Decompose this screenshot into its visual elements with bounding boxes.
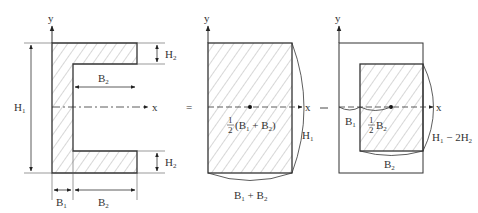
panel-inner-cutout: y x B1 1 2 B2 H1 − 2H2 B2 [335, 12, 473, 173]
b2-label: B2 [384, 158, 395, 172]
x-axis-label: x [305, 101, 311, 113]
centroid-dot [248, 105, 252, 109]
b2-bracket [360, 151, 423, 156]
half-frac-num: 1 [369, 115, 374, 125]
h1-label: H1 [302, 129, 314, 143]
h1-label: H1 [14, 101, 26, 115]
b1-offset-label: B1 [345, 115, 356, 129]
channel-shape [52, 43, 137, 173]
section-diagram: y x H1 H2 H2 B2 B1 B2 = y [0, 0, 478, 213]
panel-channel-section: y x H1 H2 H2 B2 B1 B2 [14, 12, 177, 210]
equals-sign: = [186, 101, 192, 113]
b2-inner-label: B2 [98, 72, 109, 86]
inner-height-label: H1 − 2H2 [432, 131, 473, 145]
centroid-frac-den: 2 [228, 125, 233, 135]
h2-top-label: H2 [165, 48, 177, 62]
centroid-frac-num: 1 [228, 115, 233, 125]
b2-bottom-label: B2 [98, 196, 109, 210]
y-axis-label: y [48, 12, 54, 24]
width-label: B1 + B2 [234, 189, 268, 203]
width-bracket [208, 173, 292, 181]
b1-bottom-label: B1 [56, 196, 67, 210]
half-frac-den: 2 [369, 125, 374, 135]
h2-bottom-label: H2 [165, 156, 177, 170]
panel-full-rectangle: y x 1 2 (B1 + B2) H1 B1 + B2 [204, 12, 314, 203]
x-axis-label: x [436, 101, 442, 113]
b1-offset-bracket [339, 107, 360, 110]
y-axis-label: y [204, 12, 210, 24]
h1-bracket [292, 43, 304, 173]
y-axis-label: y [335, 12, 341, 24]
x-axis-label: x [152, 101, 158, 113]
